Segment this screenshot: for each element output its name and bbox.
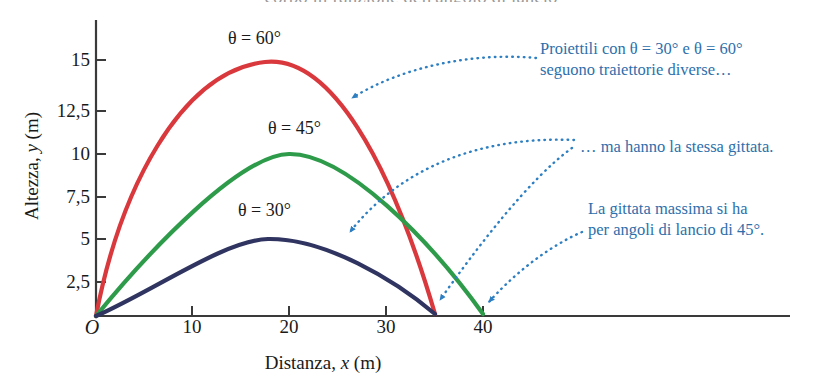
leader-arrow-same-range <box>440 148 572 300</box>
x-axis-tick-labels: O 10 20 30 40 <box>0 316 822 356</box>
x-axis-title-variable: x <box>341 352 349 373</box>
leader-arrow-max-range <box>489 232 582 302</box>
x-axis-title-unit: (m) <box>349 352 381 373</box>
x-tick-origin: O <box>85 316 99 339</box>
curve-label-45: θ = 45° <box>268 118 321 139</box>
trajectory-curve-45 <box>96 154 483 316</box>
y-tick-2-5: 2,5 <box>66 271 90 293</box>
x-tick-40: 40 <box>474 316 493 338</box>
x-tick-10: 10 <box>183 316 202 338</box>
y-tick-7-5: 7,5 <box>66 186 90 208</box>
y-axis-title-unit: (m) <box>21 112 42 144</box>
y-axis-title-prefix: Altezza, <box>21 153 42 221</box>
y-axis-title-variable: y <box>21 144 42 152</box>
y-tick-5: 5 <box>81 228 91 250</box>
curve-label-60: θ = 60° <box>228 28 281 49</box>
x-tick-20: 20 <box>280 316 299 338</box>
y-tick-12-5: 12,5 <box>57 100 90 122</box>
callout-max-range: La gittata massima si ha per angoli di l… <box>588 198 764 240</box>
curve-label-30: θ = 30° <box>238 200 291 221</box>
x-tick-30: 30 <box>377 316 396 338</box>
y-axis-title: Altezza, y (m) <box>21 86 43 246</box>
x-axis-title: Distanza, x (m) <box>158 352 488 374</box>
y-axis-ticks <box>96 60 106 282</box>
callout-different-trajectories: Proiettili con θ = 30° e θ = 60° seguono… <box>540 38 743 80</box>
y-tick-15: 15 <box>71 49 90 71</box>
leader-arrow-to-30-curve <box>350 140 574 232</box>
y-tick-10: 10 <box>71 143 90 165</box>
x-axis-ticks <box>192 306 483 316</box>
leader-arrow-different-trajectories <box>352 57 536 98</box>
callout-same-range: … ma hanno la stessa gittata. <box>580 136 773 157</box>
trajectory-curve-30 <box>96 239 435 316</box>
x-axis-title-prefix: Distanza, <box>265 352 341 373</box>
